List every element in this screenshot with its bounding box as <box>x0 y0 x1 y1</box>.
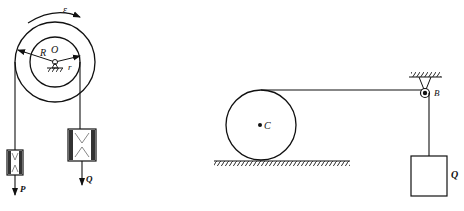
epsilon-label: ε <box>63 4 67 15</box>
weight-P-block <box>7 150 23 175</box>
radius-R-arrow <box>18 50 55 62</box>
center-C-label: C <box>264 120 271 131</box>
weight-Q-block-right <box>411 156 447 196</box>
right-figure: C B Q <box>214 72 458 196</box>
ground-hatch <box>214 161 350 166</box>
radius-R-label: R <box>39 47 46 58</box>
weight-P-label: P <box>20 184 26 194</box>
radius-r-label: r <box>68 62 72 72</box>
pulley-B-label: B <box>434 88 440 98</box>
left-figure: ε R r O P <box>7 4 96 195</box>
cylinder-center-dot <box>258 123 262 127</box>
weight-Q-block <box>68 129 96 161</box>
center-O-label: O <box>51 44 58 55</box>
mechanics-diagram: ε R r O P <box>0 0 464 211</box>
weight-Q-label-right: Q <box>451 169 458 180</box>
weight-Q-label-left: Q <box>86 174 93 184</box>
pin-support-icon <box>47 60 63 73</box>
